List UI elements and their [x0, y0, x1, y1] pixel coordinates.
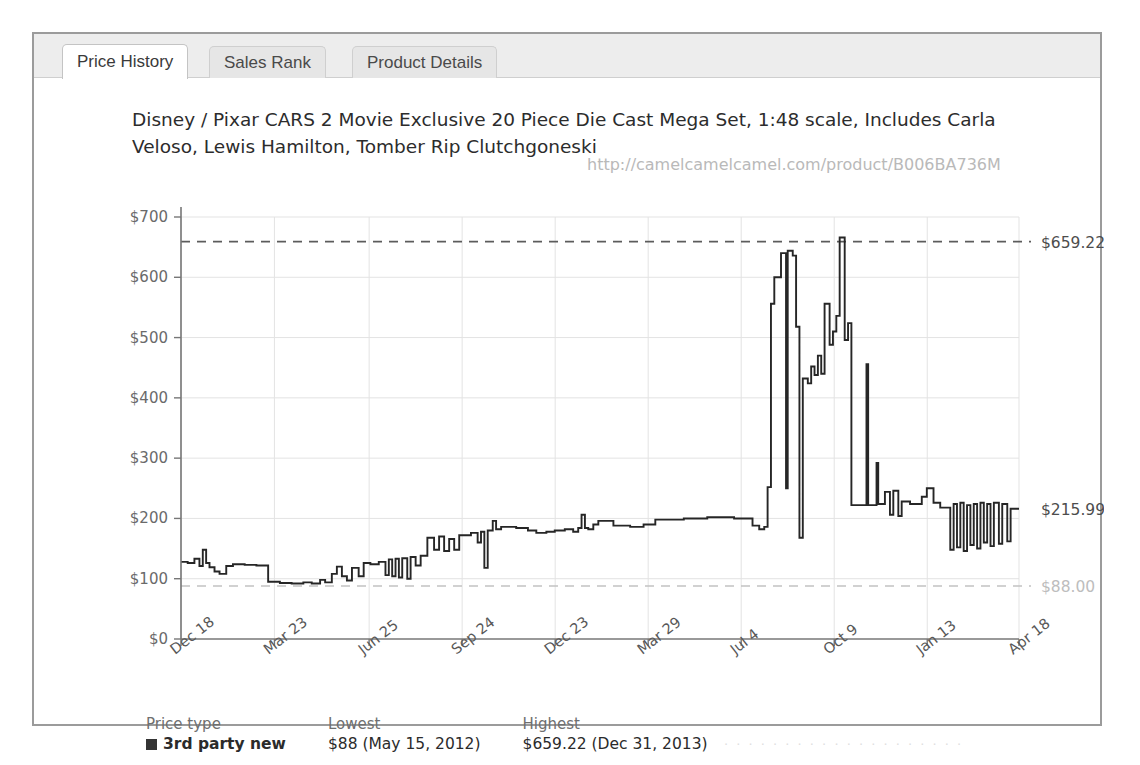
legend-price-type-label: 3rd party new	[163, 735, 286, 753]
price-history-card: Price History Sales Rank Product Details…	[32, 32, 1102, 726]
x-tick-label: Jun 25	[354, 617, 401, 658]
price-series-line	[181, 238, 1019, 584]
y-tick-label: $400	[130, 389, 168, 407]
x-tick-label: Sep 24	[448, 614, 498, 658]
x-tick-label: Dec 18	[167, 613, 217, 657]
x-tick-label: Jan 13	[912, 617, 958, 658]
x-tick-label: Mar 29	[634, 614, 684, 658]
chart-svg: $0$100$200$300$400$500$600$700 Dec 18Mar…	[34, 144, 1104, 704]
legend-color-swatch-icon	[146, 739, 157, 750]
y-axis-labels: $0$100$200$300$400$500$600$700	[130, 208, 168, 648]
y-tick-label: $200	[130, 509, 168, 527]
right-price-label: $215.99	[1041, 501, 1104, 519]
y-tick-label: $300	[130, 449, 168, 467]
x-tick-label: Apr 18	[1005, 615, 1053, 657]
right-price-labels: $659.22$215.99$88.00	[1041, 234, 1104, 596]
y-tick-label: $700	[130, 208, 168, 226]
legend-header-highest: Highest	[523, 715, 750, 735]
right-price-label: $659.22	[1041, 234, 1104, 252]
x-axis-labels: Dec 18Mar 23Jun 25Sep 24Dec 23Mar 29Jul …	[167, 613, 1053, 658]
tab-strip: Price History Sales Rank Product Details	[34, 34, 1100, 78]
x-tick-label: Jul 4	[726, 625, 761, 658]
right-price-label: $88.00	[1041, 578, 1095, 596]
y-tick-label: $0	[149, 630, 168, 648]
reference-lines	[181, 242, 1031, 586]
axes	[174, 207, 1019, 646]
price-legend: Price type Lowest Highest 3rd party new …	[146, 715, 750, 753]
price-history-chart: $0$100$200$300$400$500$600$700 Dec 18Mar…	[34, 144, 1104, 704]
x-tick-label: Dec 23	[541, 613, 591, 657]
tab-price-history[interactable]: Price History	[62, 44, 188, 79]
scan-artifact-text: . . . . . . . . . . . . . . . . . . . .	[724, 733, 963, 748]
legend-header-price-type: Price type	[146, 715, 328, 735]
y-tick-label: $600	[130, 268, 168, 286]
series-layer	[181, 238, 1019, 584]
legend-header-row: Price type Lowest Highest	[146, 715, 750, 735]
legend-header-lowest: Lowest	[328, 715, 523, 735]
legend-highest-value: $659.22 (Dec 31, 2013)	[523, 735, 750, 753]
y-tick-label: $500	[130, 329, 168, 347]
legend-lowest-value: $88 (May 15, 2012)	[328, 735, 523, 753]
tab-product-details[interactable]: Product Details	[352, 46, 497, 78]
x-tick-label: Mar 23	[260, 614, 310, 658]
legend-row: 3rd party new $88 (May 15, 2012) $659.22…	[146, 735, 750, 753]
y-tick-label: $100	[130, 570, 168, 588]
legend-price-type: 3rd party new	[146, 735, 328, 753]
gridlines	[181, 217, 1019, 639]
tab-sales-rank[interactable]: Sales Rank	[209, 46, 326, 78]
legend-table: Price type Lowest Highest 3rd party new …	[146, 715, 750, 753]
